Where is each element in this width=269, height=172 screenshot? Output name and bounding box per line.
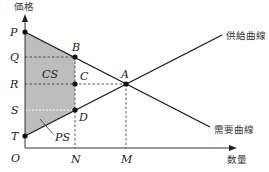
x-axis-arrow-icon <box>229 145 237 151</box>
consumer-surplus-label: CS <box>42 68 58 81</box>
point-b <box>72 54 77 59</box>
producer-surplus-label: PS <box>54 131 70 144</box>
y-axis-label: 価格 <box>14 1 34 12</box>
point-a <box>123 81 128 86</box>
point-t <box>22 133 27 138</box>
point-c <box>72 81 77 86</box>
y-axis-arrow-icon <box>22 14 28 22</box>
price-label-t: T <box>11 130 20 143</box>
quantity-label-n: N <box>70 153 81 166</box>
point-label-d: D <box>78 111 88 124</box>
price-label-r: R <box>9 78 18 91</box>
demand-curve-label: 需要曲線 <box>214 124 254 135</box>
price-label-s: S <box>11 104 19 117</box>
quantity-label-m: M <box>120 153 133 166</box>
surplus-diagram: 価格 数量 供給曲線 需要曲線 P Q R S T O N M B C A D … <box>0 0 269 172</box>
point-label-a: A <box>120 68 129 81</box>
x-axis-label: 数量 <box>227 154 247 165</box>
point-p <box>22 29 27 34</box>
price-label-p: P <box>9 26 18 39</box>
price-label-q: Q <box>10 51 19 64</box>
origin-label: O <box>11 152 20 165</box>
point-label-c: C <box>80 70 89 83</box>
point-label-b: B <box>71 41 80 54</box>
point-d <box>72 107 77 112</box>
supply-curve-label: 供給曲線 <box>226 30 266 41</box>
